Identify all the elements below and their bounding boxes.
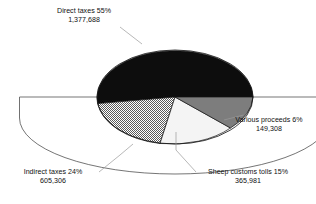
slice-label-various-proceeds-value: 149,308: [227, 125, 311, 134]
slice-label-various-proceeds: Various proceeds 6% 149,308: [227, 116, 311, 134]
slice-label-indirect-taxes-name: Indirect taxes 24%: [7, 168, 99, 177]
slice-label-various-proceeds-name: Various proceeds 6%: [227, 116, 311, 125]
slice-label-sheep-customs-tolls-value: 365,981: [196, 177, 300, 186]
leader-line-direct-taxes: [120, 27, 142, 44]
pie-slice-direct-taxes[interactable]: [97, 51, 253, 104]
slice-label-indirect-taxes-value: 605,306: [7, 177, 99, 186]
slice-label-indirect-taxes: Indirect taxes 24% 605,306: [7, 168, 99, 186]
slice-label-sheep-customs-tolls-name: Sheep customs tolls 15%: [196, 168, 300, 177]
pie-chart: Direct taxes 55% 1,377,688 Various proce…: [0, 0, 316, 204]
slice-label-direct-taxes-name: Direct taxes 55%: [47, 7, 121, 16]
slice-label-direct-taxes: Direct taxes 55% 1,377,688: [47, 7, 121, 25]
slice-label-direct-taxes-value: 1,377,688: [47, 16, 121, 25]
slice-label-sheep-customs-tolls: Sheep customs tolls 15% 365,981: [196, 168, 300, 186]
